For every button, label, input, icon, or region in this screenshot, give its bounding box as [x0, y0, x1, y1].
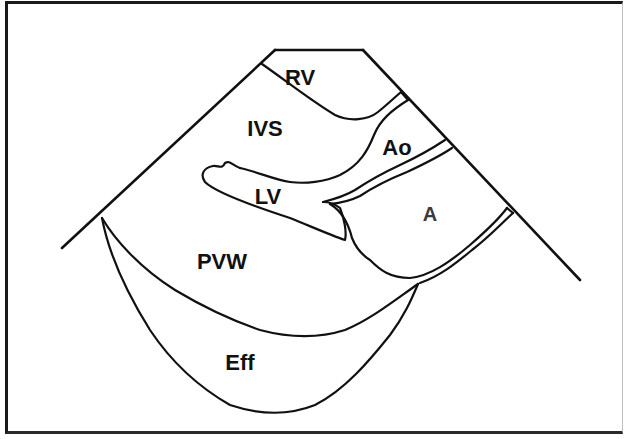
pvw-lower-boundary: [102, 218, 418, 336]
label-aorta: Ao: [382, 137, 411, 159]
label-ivs: IVS: [247, 118, 282, 140]
sector-right-edge: [363, 50, 580, 280]
rv-boundary: [262, 64, 401, 119]
label-lv: LV: [255, 186, 281, 208]
effusion-outer-boundary: [102, 218, 418, 413]
atrium-posterior-wall: [330, 204, 507, 278]
label-effusion: Eff: [225, 352, 254, 374]
lv-upper-wall: [240, 168, 290, 182]
label-atrium: A: [423, 204, 437, 224]
label-rv: RV: [285, 67, 315, 89]
sector-left-edge: [62, 50, 275, 248]
label-pvw: PVW: [197, 251, 247, 273]
